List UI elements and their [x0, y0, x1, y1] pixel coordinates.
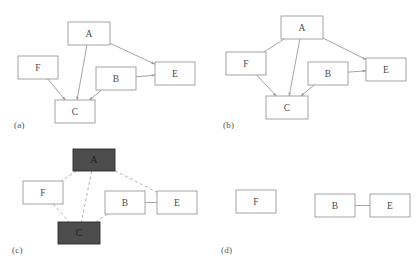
panel-c: AFBEC — [0, 136, 209, 272]
edge-C-B — [96, 214, 108, 222]
node-A[interactable]: A — [68, 22, 110, 45]
node-label-F: F — [243, 59, 248, 69]
node-label-C: C — [72, 107, 78, 117]
node-A[interactable]: A — [281, 16, 323, 39]
node-label-E: E — [387, 201, 393, 211]
panel-b-canvas: AFBEC — [209, 0, 418, 136]
edge-A-C — [81, 171, 91, 222]
edge-A-F — [264, 39, 284, 52]
panel-a-canvas: AFBEC — [0, 0, 209, 136]
panel-a-caption: (a) — [14, 120, 25, 130]
node-label-F: F — [253, 197, 258, 207]
edge-A-E — [115, 171, 157, 193]
graph-figure: AFBEC(a)AFBEC(b)AFBEC(c)FBE(d) — [0, 0, 418, 272]
node-B[interactable]: B — [315, 194, 355, 217]
edge-B-E — [136, 75, 155, 77]
edge-B-C — [301, 85, 314, 96]
node-label-A: A — [91, 155, 98, 165]
node-label-C: C — [76, 228, 82, 238]
node-E[interactable]: E — [157, 191, 197, 214]
panel-c-caption: (c) — [12, 245, 23, 255]
edge-A-F — [61, 171, 77, 181]
panel-a: AFBEC — [0, 0, 209, 136]
node-F[interactable]: F — [226, 52, 266, 75]
edge-B-C — [89, 90, 101, 100]
node-F[interactable]: F — [236, 190, 276, 213]
node-label-E: E — [172, 69, 178, 79]
node-layer: AFBEC — [23, 149, 197, 244]
node-label-E: E — [383, 65, 389, 75]
panel-d-canvas: FBE — [209, 136, 418, 272]
edge-F-C — [257, 75, 277, 96]
node-layer: FBE — [236, 190, 410, 217]
node-C[interactable]: C — [58, 222, 100, 244]
node-label-B: B — [113, 74, 119, 84]
node-F[interactable]: F — [23, 181, 63, 204]
edge-F-C — [53, 204, 69, 222]
node-C[interactable]: C — [55, 100, 95, 123]
node-B[interactable]: B — [308, 62, 348, 85]
node-label-B: B — [122, 198, 128, 208]
panel-d-caption: (d) — [221, 245, 232, 255]
node-layer: AFBEC — [226, 16, 406, 119]
node-label-B: B — [332, 201, 338, 211]
panel-b-caption: (b) — [223, 120, 234, 130]
node-A[interactable]: A — [73, 149, 115, 171]
node-label-F: F — [35, 63, 40, 73]
edge-F-C — [48, 79, 66, 100]
node-E[interactable]: E — [366, 58, 406, 81]
node-label-A: A — [86, 29, 93, 39]
panel-d: FBE — [209, 136, 418, 272]
node-C[interactable]: C — [266, 96, 308, 119]
edge-A-C — [77, 45, 87, 100]
node-B[interactable]: B — [96, 67, 136, 90]
edge-B-E — [348, 71, 366, 72]
panel-c-canvas: AFBEC — [0, 136, 209, 272]
node-label-C: C — [284, 103, 290, 113]
node-label-E: E — [174, 198, 180, 208]
node-F[interactable]: F — [18, 56, 58, 79]
node-layer: AFBEC — [18, 22, 195, 123]
node-label-B: B — [325, 69, 331, 79]
edge-A-E — [323, 38, 366, 60]
node-label-F: F — [40, 188, 45, 198]
edge-A-C — [289, 39, 300, 96]
node-E[interactable]: E — [370, 194, 410, 217]
node-label-A: A — [299, 23, 306, 33]
node-B[interactable]: B — [105, 191, 145, 214]
panel-b: AFBEC — [209, 0, 418, 136]
edge-A-E — [110, 43, 155, 64]
node-E[interactable]: E — [155, 62, 195, 85]
